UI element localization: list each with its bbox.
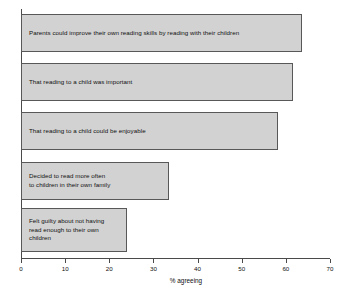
axis-tick [330, 259, 331, 263]
axis-tick-label: 60 [282, 265, 289, 272]
bar[interactable] [21, 208, 127, 252]
axis-tick-label: 0 [19, 265, 22, 272]
axis-tick-label: 10 [62, 265, 69, 272]
bar-row[interactable]: Felt guilty about not having read enough… [21, 208, 127, 252]
axis-tick [21, 259, 22, 263]
bar[interactable] [21, 63, 293, 101]
bar[interactable] [21, 14, 302, 52]
bar-row[interactable]: Parents could improve their own reading … [21, 14, 302, 52]
axis-tick-label: 30 [150, 265, 157, 272]
value-axis-line [21, 258, 330, 259]
axis-tick-label: 50 [238, 265, 245, 272]
axis-tick-label: 40 [194, 265, 201, 272]
bar-row[interactable]: Decided to read more often to children i… [21, 162, 169, 200]
axis-tick-label: 20 [106, 265, 113, 272]
axis-tick [65, 259, 66, 263]
bar[interactable] [21, 112, 278, 150]
bar-row[interactable]: That reading to a child could be enjoyab… [21, 112, 278, 150]
bar[interactable] [21, 162, 169, 200]
axis-tick [242, 259, 243, 263]
axis-tick [109, 259, 110, 263]
bar-row[interactable]: That reading to a child was important [21, 63, 293, 101]
bar-chart: Parents could improve their own reading … [0, 0, 344, 296]
x-axis-title: % agreeing [0, 277, 344, 284]
axis-tick [198, 259, 199, 263]
axis-tick [286, 259, 287, 263]
axis-tick-label: 70 [327, 265, 334, 272]
axis-tick [153, 259, 154, 263]
x-axis-title-text: % agreeing [142, 277, 202, 284]
